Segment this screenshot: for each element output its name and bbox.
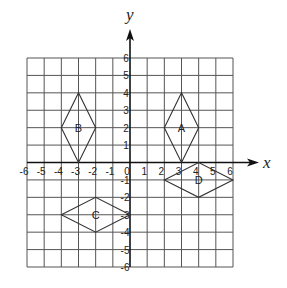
y-tick-label: -2: [121, 192, 130, 203]
coordinate-plane: x y -6-5-4-3-2-10123456123456-1-2-3-4-5-…: [0, 0, 287, 288]
x-axis-label: x: [262, 153, 271, 172]
y-tick-label: -4: [121, 227, 130, 238]
coordinate-diagram: x y -6-5-4-3-2-10123456123456-1-2-3-4-5-…: [0, 0, 287, 288]
shape-label: D: [195, 174, 203, 186]
x-tick-label: 2: [159, 166, 165, 177]
y-tick-label: 3: [123, 105, 129, 116]
shape-label: A: [178, 122, 186, 134]
y-tick-label: 1: [123, 140, 129, 151]
x-tick-label: 6: [227, 166, 233, 177]
y-tick-label: -1: [121, 175, 130, 186]
x-tick-label: -6: [20, 166, 29, 177]
x-tick-label: -5: [37, 166, 46, 177]
x-tick-label: -2: [88, 166, 97, 177]
y-tick-label: 6: [123, 53, 129, 64]
shape-label: B: [75, 122, 82, 134]
x-tick-label: -3: [71, 166, 80, 177]
axes: x y: [27, 5, 271, 267]
x-tick-label: -1: [105, 166, 114, 177]
y-tick-label: -5: [121, 245, 130, 256]
y-axis-label: y: [124, 5, 134, 24]
y-tick-label: 5: [123, 70, 129, 81]
x-tick-label: 1: [141, 166, 147, 177]
y-tick-label: -6: [121, 262, 130, 273]
y-tick-label: 2: [123, 123, 129, 134]
shape-label: C: [92, 209, 100, 221]
x-tick-label: -4: [54, 166, 63, 177]
y-tick-label: 4: [123, 88, 129, 99]
